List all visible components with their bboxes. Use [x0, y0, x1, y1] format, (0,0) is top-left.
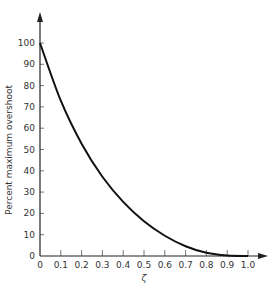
overshoot-chart: 0102030405060708090100 00.10.20.30.40.50…: [0, 0, 273, 290]
y-tick-label: 80: [24, 81, 36, 91]
y-tick-label: 60: [24, 123, 36, 133]
x-axis-arrow-icon: [258, 253, 268, 259]
y-tick-label: 20: [24, 208, 36, 218]
y-tick-label: 10: [24, 230, 36, 240]
y-tick-label: 40: [24, 166, 36, 176]
y-tick-label: 30: [24, 187, 36, 197]
y-tick-label: 0: [29, 251, 35, 261]
x-tick-label: 0.4: [116, 260, 131, 270]
x-tick-label: 0.1: [54, 260, 68, 270]
x-tick-label: 0.6: [158, 260, 173, 270]
x-tick-label: 0.7: [178, 260, 192, 270]
x-tick-label: 0.9: [220, 260, 235, 270]
x-tick-label: 0: [37, 260, 43, 270]
x-axis-label: ζ: [141, 273, 148, 283]
y-tick-label: 70: [24, 102, 36, 112]
x-tick-label: 0.5: [137, 260, 151, 270]
y-axis-label: Percent maximum overshoot: [4, 85, 14, 215]
x-tick-label: 1.0: [241, 260, 256, 270]
y-axis-arrow-icon: [37, 12, 43, 22]
x-tick-label: 0.2: [74, 260, 88, 270]
y-tick-label: 100: [18, 38, 35, 48]
x-tick-label: 0.8: [199, 260, 214, 270]
x-tick-label: 0.3: [95, 260, 109, 270]
y-tick-label: 90: [24, 59, 36, 69]
y-tick-label: 50: [24, 145, 36, 155]
x-axis-ticks: 00.10.20.30.40.50.60.70.80.91.0: [37, 250, 255, 270]
overshoot-curve: [40, 43, 248, 256]
